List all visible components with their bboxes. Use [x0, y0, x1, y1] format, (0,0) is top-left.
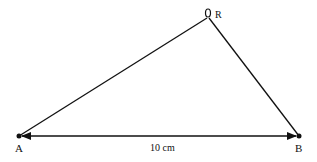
vertex-r-label: R [215, 9, 222, 20]
side-rb [209, 18, 299, 136]
vertex-r-loop [206, 9, 211, 17]
vertex-a-point [17, 134, 22, 139]
vertex-b-point [297, 134, 302, 139]
triangle-diagram: A B R 10 cm [0, 0, 317, 162]
vertex-b-label: B [295, 142, 302, 154]
base-length-label: 10 cm [150, 142, 175, 153]
vertex-a-label: A [15, 142, 23, 154]
side-ar [19, 18, 207, 136]
